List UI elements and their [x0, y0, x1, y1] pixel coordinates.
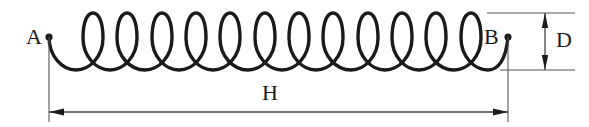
label-point-a: A [26, 26, 42, 48]
d-arrowhead-top [542, 13, 548, 28]
h-arrowhead-left [49, 109, 64, 116]
label-diameter-d: D [556, 29, 572, 51]
helix-drawing-canvas [0, 0, 589, 127]
label-length-h: H [262, 82, 278, 104]
h-arrowhead-right [493, 109, 508, 116]
coil-spring-diagram: A B D H [0, 0, 589, 127]
helix-coil-path [49, 13, 508, 70]
label-point-b: B [484, 26, 499, 48]
d-arrowhead-bottom [542, 55, 548, 70]
helix-coil [49, 13, 508, 70]
